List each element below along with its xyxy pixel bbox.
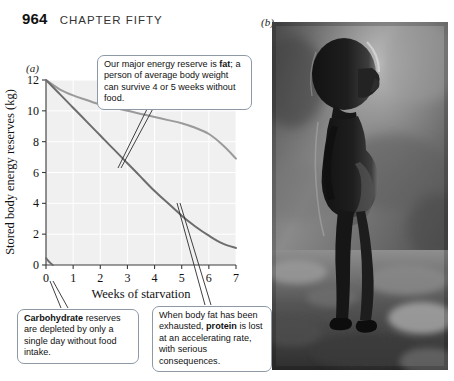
- x-axis-label: Weeks of starvation: [92, 287, 192, 301]
- y-tick-label: 10: [27, 104, 39, 118]
- callout-fat-text: Our major energy reserve is fat; a perso…: [104, 59, 240, 103]
- x-tick-label: 3: [124, 271, 130, 285]
- running-head: 964 CHAPTER FIFTY: [22, 10, 163, 27]
- figure-b-photograph: [272, 22, 448, 370]
- y-tick-label: 4: [33, 196, 39, 210]
- callout-protein-text: When body fat has been exhausted, protei…: [159, 310, 263, 366]
- y-tick-label: 12: [27, 73, 39, 87]
- y-tick-label: 2: [33, 227, 39, 241]
- x-tick-label: 6: [206, 271, 212, 285]
- y-tick-label: 8: [33, 135, 39, 149]
- x-tick-label: 5: [179, 271, 185, 285]
- x-tick-label: 1: [70, 271, 76, 285]
- y-tick-label: 0: [33, 258, 39, 272]
- x-tick-label: 0: [43, 271, 49, 285]
- x-tick-label: 4: [152, 271, 158, 285]
- photograph-image: [272, 22, 448, 370]
- callout-carbohydrate-text: Carbohydrate reserves are depleted by on…: [24, 313, 121, 357]
- x-tick-label: 7: [233, 271, 239, 285]
- page-number: 964: [22, 10, 48, 27]
- chapter-title: CHAPTER FIFTY: [60, 14, 163, 26]
- x-tick-labels: 01234567: [43, 271, 239, 285]
- x-tick-label: 2: [97, 271, 103, 285]
- callout-fat: Our major energy reserve is fat; a perso…: [97, 55, 252, 110]
- callout-protein: When body fat has been exhausted, protei…: [152, 306, 272, 372]
- y-tick-label: 6: [33, 166, 39, 180]
- callout-carbohydrate: Carbohydrate reserves are depleted by on…: [17, 309, 139, 364]
- y-tick-labels: 024681012: [27, 73, 39, 272]
- y-axis-label: Stored body energy reserves (kg): [3, 89, 17, 255]
